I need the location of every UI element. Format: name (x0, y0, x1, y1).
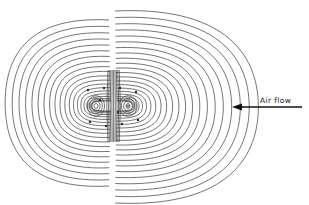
left-lobe-contours (5, 20, 111, 187)
air-flow-label: Air flow (260, 96, 291, 105)
